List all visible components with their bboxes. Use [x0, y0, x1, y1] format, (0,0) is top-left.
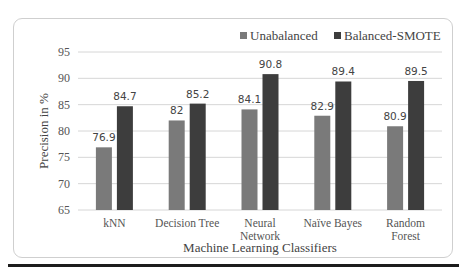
legend-label-balanced-smote: Balanced-SMOTE — [344, 28, 441, 43]
data-label: 84.1 — [238, 93, 261, 105]
bar-balanced-smote — [117, 106, 133, 210]
legend: Unabalanced Balanced-SMOTE — [240, 28, 441, 43]
data-label: 80.9 — [383, 110, 406, 122]
y-tick-label: 75 — [58, 150, 70, 164]
y-tick-label: 70 — [58, 177, 70, 191]
x-category-label: Naïve Bayes — [304, 217, 363, 230]
y-tick-label: 65 — [58, 203, 70, 217]
y-axis-ticks: 65707580859095 — [58, 45, 70, 217]
x-axis-categories: kNNDecision TreeNeuralNetworkNaïve Bayes… — [103, 217, 425, 242]
x-category-label: Neural — [244, 217, 275, 229]
y-tick-label: 90 — [58, 71, 70, 85]
legend-swatch-balanced-smote — [334, 32, 341, 39]
bar-unbalanced — [387, 126, 403, 210]
bar-balanced-smote — [408, 81, 424, 210]
bar-chart: 65707580859095 76.984.78285.284.190.882.… — [0, 0, 467, 275]
bar-unbalanced — [242, 109, 258, 210]
bar-balanced-smote — [190, 104, 206, 210]
data-label: 89.4 — [332, 65, 356, 77]
bar-unbalanced — [169, 120, 185, 210]
x-category-label: Decision Tree — [155, 217, 219, 229]
y-tick-label: 95 — [58, 45, 70, 59]
bar-unbalanced — [96, 147, 112, 210]
y-axis-title: Precision in % — [36, 93, 51, 169]
legend-label-unbalanced: Unabalanced — [250, 28, 318, 43]
data-label: 76.9 — [92, 131, 115, 143]
y-tick-label: 80 — [58, 124, 70, 138]
data-label: 84.7 — [113, 90, 136, 102]
bottom-rule — [8, 264, 459, 267]
bar-unbalanced — [314, 116, 330, 210]
x-category-label: kNN — [103, 217, 126, 229]
data-label: 90.8 — [259, 58, 282, 70]
data-label: 85.2 — [186, 88, 209, 100]
bar-balanced-smote — [263, 74, 279, 210]
legend-swatch-unbalanced — [240, 32, 247, 39]
data-label: 89.5 — [404, 65, 427, 77]
data-label: 82 — [170, 104, 183, 116]
x-category-label: Random — [386, 217, 425, 229]
bar-balanced-smote — [335, 81, 351, 210]
x-category-label: Forest — [391, 230, 421, 242]
x-axis-title: Machine Learning Classifiers — [183, 240, 337, 255]
data-label: 82.9 — [311, 100, 334, 112]
y-tick-label: 85 — [58, 98, 70, 112]
